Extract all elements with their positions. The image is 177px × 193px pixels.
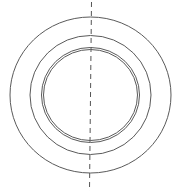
vertical-dashed-centerline (90, 2, 92, 191)
concentric-circles-drawing (0, 0, 177, 193)
drawing-canvas (0, 0, 177, 193)
